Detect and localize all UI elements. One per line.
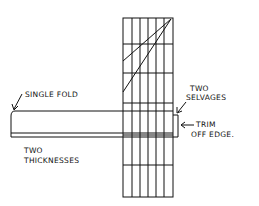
trim-label-2: OFF EDGE. — [191, 130, 234, 139]
folded-strip — [11, 111, 178, 137]
two-selvages-label-1: TWO — [189, 84, 209, 93]
trim-label-1: TRIM — [195, 120, 216, 129]
two-thicknesses-label-2: THICKNESSES — [23, 156, 79, 165]
two-selvages-label-2: SELVAGES — [186, 93, 226, 102]
selvages-arrow-icon — [177, 102, 186, 113]
fabric-diagram: SINGLE FOLD TWO SELVAGES TRIM OFF EDGE. … — [0, 0, 259, 206]
two-thicknesses-label-1: TWO — [23, 146, 43, 155]
single-fold-label: SINGLE FOLD — [25, 90, 78, 99]
fabric-grid — [123, 18, 173, 197]
single-fold-arrow-icon — [12, 94, 22, 110]
trim-arrow-icon — [181, 122, 194, 128]
